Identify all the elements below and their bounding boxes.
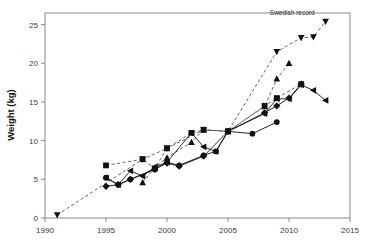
data-point-square bbox=[140, 156, 146, 162]
x-tick-label: 2010 bbox=[280, 226, 298, 235]
x-tick-label: 2015 bbox=[341, 226, 359, 235]
x-tick-label: 1995 bbox=[97, 226, 115, 235]
y-tick-label: 15 bbox=[29, 98, 38, 107]
data-point-square bbox=[164, 145, 170, 151]
weight-over-time-line-chart: 0510152025 199019952000200520102015 Swed… bbox=[0, 0, 368, 248]
data-point-circle bbox=[213, 149, 219, 155]
chart-container: 0510152025 199019952000200520102015 Swed… bbox=[0, 0, 368, 248]
y-tick-label: 20 bbox=[29, 59, 38, 68]
y-tick-label: 25 bbox=[29, 21, 38, 30]
y-tick-label: 0 bbox=[34, 214, 39, 223]
y-axis-label: Weight (kg) bbox=[5, 89, 16, 141]
data-point-circle bbox=[274, 119, 280, 125]
chart-annotation: Swedish record bbox=[270, 9, 315, 16]
x-tick-label: 2005 bbox=[219, 226, 237, 235]
data-point-circle bbox=[250, 131, 256, 137]
annotation-group: Swedish record bbox=[270, 9, 315, 16]
x-tick-label: 2000 bbox=[158, 226, 176, 235]
data-point-square bbox=[103, 162, 109, 168]
x-tick-label: 1990 bbox=[36, 226, 54, 235]
data-point-circle bbox=[103, 175, 109, 181]
y-tick-label: 10 bbox=[29, 137, 38, 146]
y-tick-label: 5 bbox=[34, 175, 39, 184]
